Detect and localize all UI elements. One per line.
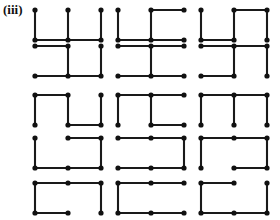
- node-r3c2-r1c3: [181, 92, 186, 97]
- graph-cell-r5c3: [198, 180, 269, 215]
- node-r4c3-r1c1: [198, 135, 203, 140]
- node-r1c1-r1c3: [98, 7, 103, 12]
- node-r3c1-r1c1: [32, 92, 37, 97]
- node-r1c1-r2c3: [98, 37, 103, 42]
- node-r3c3-r2c1: [198, 122, 203, 127]
- node-r4c2-r1c3: [181, 135, 186, 140]
- node-r3c3-r1c3: [264, 92, 269, 97]
- cells-layer: [32, 7, 269, 215]
- node-r5c1-r2c1: [32, 210, 37, 215]
- node-r2c1-r2c1: [32, 73, 37, 78]
- node-r4c1-r1c3: [98, 135, 103, 140]
- node-r2c3-r1c3: [264, 43, 269, 48]
- node-r1c3-r2c1: [198, 37, 203, 42]
- node-r4c3-r2c2: [231, 165, 236, 170]
- node-r2c2-r2c3: [181, 73, 186, 78]
- graph-cell-r1c3: [198, 7, 269, 42]
- node-r4c2-r1c2: [148, 135, 153, 140]
- node-r1c3-r1c1: [198, 7, 203, 12]
- node-r4c2-r2c1: [115, 165, 120, 170]
- node-r5c2-r2c2: [148, 210, 153, 215]
- node-r4c3-r1c2: [231, 135, 236, 140]
- node-r5c3-r2c3: [264, 210, 269, 215]
- node-r3c3-r1c1: [198, 92, 203, 97]
- graph-grid-svg: [0, 0, 280, 220]
- graph-cell-r5c2: [115, 180, 186, 215]
- node-r5c1-r1c2: [65, 180, 70, 185]
- node-r4c3-r1c3: [264, 135, 269, 140]
- graph-cell-r5c1: [32, 180, 103, 215]
- node-r4c1-r2c3: [98, 165, 103, 170]
- node-r5c3-r1c1: [198, 180, 203, 185]
- node-r1c2-r1c3: [181, 7, 186, 12]
- node-r4c1-r2c2: [65, 165, 70, 170]
- node-r3c2-r2c1: [115, 122, 120, 127]
- node-r5c2-r1c3: [181, 180, 186, 185]
- node-r2c3-r2c3: [264, 73, 269, 78]
- node-r2c3-r1c1: [198, 43, 203, 48]
- node-r4c1-r1c1: [32, 135, 37, 140]
- node-r2c2-r2c1: [115, 73, 120, 78]
- graph-cell-r2c1: [32, 43, 103, 78]
- node-r2c3-r2c2: [231, 73, 236, 78]
- node-r3c2-r2c3: [181, 122, 186, 127]
- node-r3c2-r1c1: [115, 92, 120, 97]
- node-r3c3-r1c2: [231, 92, 236, 97]
- node-r2c2-r1c1: [115, 43, 120, 48]
- node-r3c2-r2c2: [148, 122, 153, 127]
- node-r1c1-r1c2: [65, 7, 70, 12]
- node-r3c1-r2c2: [65, 122, 70, 127]
- node-r4c2-r2c2: [148, 165, 153, 170]
- node-r2c2-r2c2: [148, 73, 153, 78]
- node-r2c2-r1c3: [181, 43, 186, 48]
- graph-cell-r4c1: [32, 135, 103, 170]
- node-r5c2-r1c1: [115, 180, 120, 185]
- node-r1c1-r1c1: [32, 7, 37, 12]
- node-r3c1-r1c2: [65, 92, 70, 97]
- graph-cell-r2c2: [115, 43, 186, 78]
- node-r2c1-r1c2: [65, 43, 70, 48]
- graph-cell-r1c1: [32, 7, 103, 42]
- node-r2c3-r1c2: [231, 43, 236, 48]
- node-r4c1-r2c1: [32, 165, 37, 170]
- graph-cell-r1c2: [115, 7, 186, 42]
- node-r4c2-r1c1: [115, 135, 120, 140]
- graph-cell-r2c3: [198, 43, 269, 78]
- node-r3c1-r2c3: [98, 122, 103, 127]
- graph-cell-r3c3: [198, 92, 269, 127]
- node-r2c1-r2c3: [98, 73, 103, 78]
- figure-panel: (iii): [0, 0, 280, 220]
- node-r5c3-r2c2: [231, 210, 236, 215]
- node-r2c1-r2c2: [65, 73, 70, 78]
- node-r5c3-r2c1: [198, 210, 203, 215]
- node-r1c2-r1c1: [115, 7, 120, 12]
- node-r2c2-r1c2: [148, 43, 153, 48]
- node-r2c1-r1c3: [98, 43, 103, 48]
- node-r1c1-r2c2: [65, 37, 70, 42]
- node-r4c1-r1c2: [65, 135, 70, 140]
- node-r1c2-r2c3: [181, 37, 186, 42]
- node-r1c3-r1c3: [264, 7, 269, 12]
- node-r4c3-r2c3: [264, 165, 269, 170]
- node-r5c3-r1c3: [264, 180, 269, 185]
- node-r5c1-r2c3: [98, 210, 103, 215]
- graph-cell-r4c3: [198, 135, 269, 170]
- node-r3c1-r1c3: [98, 92, 103, 97]
- node-r1c3-r1c2: [231, 7, 236, 12]
- node-r4c3-r2c1: [198, 165, 203, 170]
- node-r1c2-r1c2: [148, 7, 153, 12]
- node-r5c1-r1c3: [98, 180, 103, 185]
- node-r5c3-r1c2: [231, 180, 236, 185]
- graph-cell-r4c2: [115, 135, 186, 170]
- node-r1c3-r2c2: [231, 37, 236, 42]
- node-r1c3-r2c3: [264, 37, 269, 42]
- node-r5c2-r2c1: [115, 210, 120, 215]
- node-r1c2-r2c1: [115, 37, 120, 42]
- node-r1c2-r2c2: [148, 37, 153, 42]
- node-r3c3-r2c3: [264, 122, 269, 127]
- node-r5c2-r2c3: [181, 210, 186, 215]
- node-r3c3-r2c2: [231, 122, 236, 127]
- node-r5c2-r1c2: [148, 180, 153, 185]
- node-r3c1-r2c1: [32, 122, 37, 127]
- node-r1c1-r2c1: [32, 37, 37, 42]
